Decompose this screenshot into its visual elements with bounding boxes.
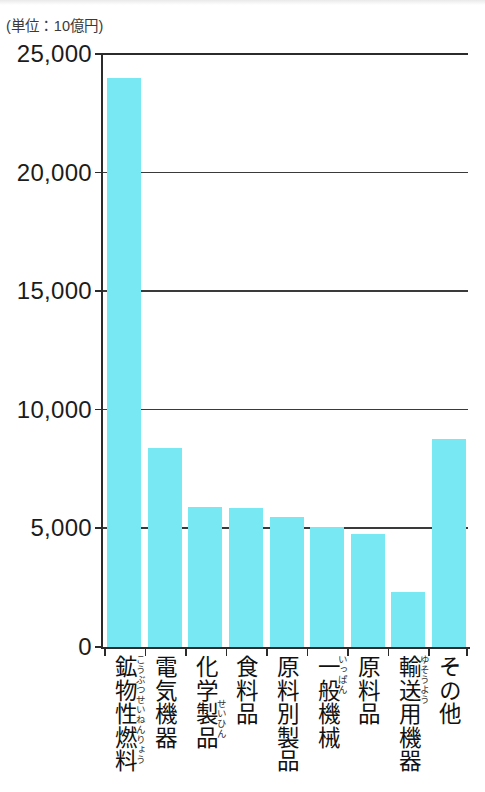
bar-7	[351, 534, 385, 647]
gridline-10000	[103, 409, 468, 411]
category-label-8: 輸送用機器ゆそうよう	[387, 655, 428, 773]
category-text: 食料品	[233, 655, 256, 726]
category-label-3: 化学製品せいひん	[184, 655, 225, 749]
bar-2	[148, 448, 182, 647]
category-text: 原料品	[355, 655, 378, 726]
category-label-7: 原料品	[346, 655, 387, 726]
category-label-1: 鉱物性燃料こうぶつせいねんりょう	[103, 655, 144, 773]
bar-1	[107, 78, 141, 647]
y-axis-line	[101, 53, 103, 648]
category-text: 鉱物性燃料	[112, 655, 135, 773]
gridline-20000	[103, 172, 468, 174]
category-text: 輸送用機器	[396, 655, 419, 773]
category-labels-group: 鉱物性燃料こうぶつせいねんりょう電気機器化学製品せいひん食料品原料別製品一般機械…	[103, 655, 468, 790]
y-tick-15000	[95, 290, 103, 292]
category-label-6: 一般機械いっぱん	[306, 655, 347, 749]
y-axis-label-5000: 5,000	[30, 514, 92, 542]
y-axis-label-20000: 20,000	[17, 159, 92, 187]
y-axis-label-0: 0	[78, 633, 92, 661]
category-text: その他	[436, 655, 459, 726]
gridline-25000	[103, 53, 468, 55]
category-label-4: 食料品	[225, 655, 266, 726]
category-label-9: その他	[427, 655, 468, 726]
bar-8	[391, 592, 425, 647]
category-text: 原料別製品	[274, 655, 297, 773]
cropped-heading-strip	[0, 0, 485, 5]
y-axis-label-10000: 10,000	[17, 396, 92, 424]
bar-3	[188, 507, 222, 647]
bar-4	[229, 508, 263, 647]
bar-9	[432, 439, 466, 647]
unit-caption: (単位：10億円)	[6, 14, 104, 35]
y-tick-0	[95, 646, 103, 648]
y-tick-25000	[95, 53, 103, 55]
y-axis-label-25000: 25,000	[17, 40, 92, 68]
bar-6	[310, 527, 344, 647]
y-axis-label-15000: 15,000	[17, 277, 92, 305]
y-tick-10000	[95, 409, 103, 411]
category-label-2: 電気機器	[144, 655, 185, 749]
chart-plot-area: 05,00010,00015,00020,00025,000	[103, 54, 468, 647]
category-label-5: 原料別製品	[265, 655, 306, 773]
x-axis-line	[101, 647, 470, 649]
y-tick-5000	[95, 527, 103, 529]
category-text: 電気機器	[152, 655, 175, 749]
category-text: 化学製品	[193, 655, 216, 749]
gridline-15000	[103, 290, 468, 292]
category-text: 一般機械	[315, 655, 338, 749]
bar-5	[270, 517, 304, 647]
y-tick-20000	[95, 172, 103, 174]
